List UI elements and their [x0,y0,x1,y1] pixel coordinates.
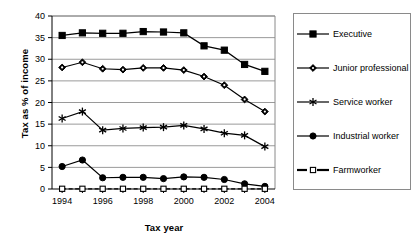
legend-item[interactable]: Farmworker [294,160,412,180]
y-tick-label: 5 [40,163,45,173]
y-tick-label: 25 [35,76,45,86]
y-tick-label: 10 [35,141,45,151]
y-tick-label: 0 [40,184,45,194]
legend-item-label: Executive [333,29,372,39]
legend-item-label: Service worker [333,97,393,107]
legend-marker-asterisk-icon [296,94,330,110]
y-tick-label: 15 [35,119,45,129]
legend-item[interactable]: Service worker [294,92,412,112]
legend-item-label: Farmworker [333,165,381,175]
legend-marker-filled-square-icon [296,26,330,42]
x-tick-label: 1994 [52,196,72,206]
y-tick-label: 40 [35,11,45,21]
x-tick-label: 2002 [214,196,234,206]
x-tick-label: 2004 [255,196,275,206]
legend-item[interactable]: Executive [294,24,412,44]
legend-marker-filled-diamond-icon [296,60,330,76]
y-tick-label: 20 [35,98,45,108]
series-service-worker [59,108,269,151]
legend-item-label: Junior professional [333,63,409,73]
legend-item-label: Industrial worker [333,131,399,141]
x-tick-label: 1996 [93,196,113,206]
y-tick-label: 35 [35,33,45,43]
plot-area: 0510152025303540 19941996199820002002200… [0,0,286,244]
line-chart: Tax as % of income Tax year 051015202530… [0,0,286,244]
legend-item[interactable]: Industrial worker [294,126,412,146]
y-tick-label: 30 [35,54,45,64]
legend-marker-open-square-icon [296,162,330,178]
legend: ExecutiveJunior professionalService work… [293,13,411,190]
chart-page: Tax as % of income Tax year 051015202530… [0,0,414,244]
gridlines [52,16,275,167]
x-tick-label: 1998 [133,196,153,206]
series-industrial-worker [59,157,268,190]
series-junior-professional [59,59,269,115]
y-axis-ticks: 0510152025303540 [35,11,52,194]
x-tick-label: 2000 [174,196,194,206]
legend-marker-filled-circle-icon [296,128,330,144]
legend-item[interactable]: Junior professional [294,58,412,78]
